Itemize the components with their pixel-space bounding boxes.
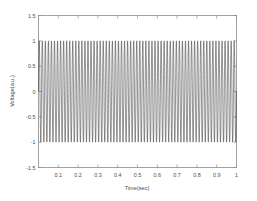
x-tick-label: 0.2 <box>74 172 82 178</box>
x-axis-title: Time(sec) <box>125 185 150 191</box>
x-tick-label: 0.7 <box>173 172 181 178</box>
figure-container: 0.10.20.30.40.50.60.70.80.91 -1.5-1-0.50… <box>0 0 257 201</box>
y-tick-label: 1.5 <box>28 13 36 19</box>
y-tick-label: -1 <box>31 139 36 145</box>
x-tick-label: 0.3 <box>94 172 102 178</box>
y-tick-label: 0.5 <box>28 63 36 69</box>
y-tick-label: -0.5 <box>26 114 35 120</box>
x-tick-label: 0.6 <box>154 172 162 178</box>
chart-canvas: 0.10.20.30.40.50.60.70.80.91 -1.5-1-0.50… <box>0 0 257 201</box>
y-tick-label: 0 <box>33 89 36 95</box>
x-tick-label: 0.9 <box>213 172 221 178</box>
y-axis-title: Voltage(a.u.) <box>9 75 15 107</box>
y-tick-label: 1 <box>33 38 36 44</box>
y-tick-label: -1.5 <box>26 165 35 171</box>
x-tick-label: 0.8 <box>193 172 201 178</box>
x-tick-label: 1 <box>235 172 238 178</box>
x-tick-label: 0.5 <box>134 172 142 178</box>
x-tick-label: 0.1 <box>55 172 63 178</box>
x-tick-label: 0.4 <box>114 172 122 178</box>
